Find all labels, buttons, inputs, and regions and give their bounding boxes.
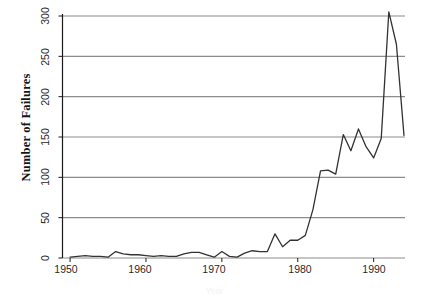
- data-series-line: [70, 12, 404, 257]
- gridlines: [63, 16, 406, 258]
- axis-ticks: [59, 16, 374, 262]
- plot-area: [0, 0, 429, 303]
- failures-line-chart: Number of Failures 0 50 100 150 200 250 …: [0, 0, 429, 303]
